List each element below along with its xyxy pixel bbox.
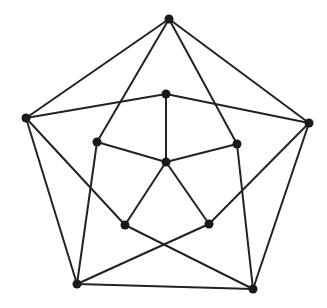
node-D [73, 280, 82, 289]
edge-D-E [77, 284, 253, 289]
graph-canvas [0, 0, 327, 308]
edge-C-K [209, 123, 309, 224]
node-B [22, 114, 31, 123]
edge-H-E [237, 144, 253, 289]
edge-A-H [169, 19, 237, 144]
node-F [162, 90, 171, 99]
node-E [249, 285, 258, 294]
node-G [93, 138, 102, 147]
edge-F-C [166, 94, 309, 123]
edge-B-F [26, 94, 166, 118]
edge-J-E [125, 225, 253, 289]
node-C [305, 119, 314, 128]
edge-H-I [166, 144, 237, 162]
node-K [205, 220, 214, 229]
edge-I-J [125, 162, 166, 225]
node-I [162, 158, 171, 167]
node-H [233, 140, 242, 149]
edge-A-B [26, 19, 169, 118]
edge-B-D [26, 118, 77, 284]
node-J [121, 221, 130, 230]
edge-A-C [169, 19, 309, 123]
edge-A-G [97, 19, 169, 142]
node-A [165, 15, 174, 24]
edge-G-I [97, 142, 166, 162]
edge-G-D [77, 142, 97, 284]
graph-diagram [0, 0, 327, 308]
edge-C-E [253, 123, 309, 289]
edge-I-K [166, 162, 209, 224]
edge-B-J [26, 118, 125, 225]
